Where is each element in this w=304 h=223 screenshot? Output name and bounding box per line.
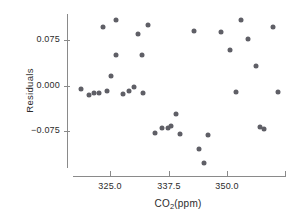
data-point [114, 53, 119, 58]
data-point [219, 30, 224, 35]
x-axis-title: CO2(ppm) [118, 198, 238, 211]
data-point [140, 53, 145, 58]
data-point [78, 86, 83, 91]
data-points-layer [0, 0, 304, 223]
data-point [152, 131, 157, 136]
data-point [140, 91, 145, 96]
data-point [113, 18, 118, 23]
data-point [120, 91, 125, 96]
scatter-plot-figure: 0.0750.000−0.075325.0337.5350.0 Residual… [0, 0, 304, 223]
data-point [201, 160, 206, 165]
data-point [196, 146, 201, 151]
x-axis-title-post: (ppm) [174, 198, 201, 209]
data-point [160, 125, 165, 130]
data-point [239, 17, 244, 22]
data-point [173, 111, 178, 116]
data-point [136, 32, 141, 37]
data-point [132, 84, 137, 89]
data-point [262, 127, 267, 132]
data-point [100, 25, 105, 30]
data-point [205, 133, 210, 138]
data-point [254, 63, 259, 68]
data-point [191, 28, 196, 33]
data-point [127, 89, 132, 94]
data-point [228, 47, 233, 52]
data-point [234, 90, 239, 95]
data-point [109, 74, 114, 79]
data-point [105, 89, 110, 94]
data-point [91, 91, 96, 96]
y-axis-title: Residuals [24, 61, 35, 121]
x-axis-title-pre: CO [155, 198, 170, 209]
data-point [275, 90, 280, 95]
data-point [177, 131, 182, 136]
data-point [97, 90, 102, 95]
data-point [245, 36, 250, 41]
data-point [145, 23, 150, 28]
data-point [168, 123, 173, 128]
data-point [271, 24, 276, 29]
